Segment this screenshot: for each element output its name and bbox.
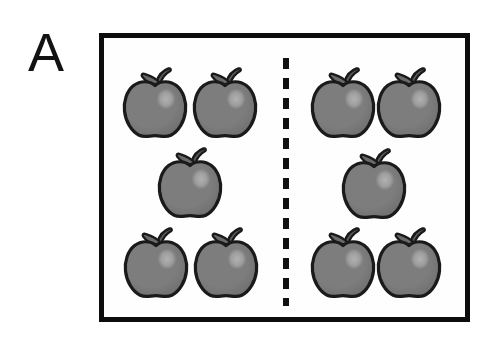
apple-left-top-1: [118, 61, 192, 141]
apple-left-middle-1: [153, 141, 227, 221]
figure-canvas: A: [0, 0, 491, 346]
apple-left-top-2: [188, 61, 262, 141]
apple-right-bottom-1: [306, 221, 380, 301]
vertical-dashed-divider: [283, 58, 289, 306]
apple-right-bottom-2: [372, 221, 446, 301]
panel-label: A: [28, 22, 84, 82]
apple-left-bottom-2: [189, 221, 263, 301]
apple-left-bottom-1: [119, 221, 193, 301]
apple-right-top-2: [372, 61, 446, 141]
apple-right-top-1: [306, 61, 380, 141]
apple-right-middle-1: [337, 142, 411, 222]
